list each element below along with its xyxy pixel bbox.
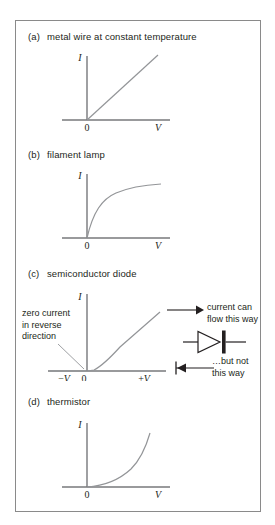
panel-c-x-axis-label-positive: +V — [138, 373, 152, 381]
panel-a-y-axis-label: I — [77, 52, 82, 63]
panel-c-origin-label: 0 — [82, 373, 87, 381]
panel-b-caption: (b)filament lamp — [28, 149, 105, 161]
panel-d-tag: (d) — [28, 396, 47, 408]
panel-a-origin-label: 0 — [85, 122, 90, 133]
figure-root: (a)metal wire at constant temperature I … — [0, 0, 275, 525]
panel-d-curve — [87, 433, 150, 487]
panel-b-x-axis-label: V — [155, 240, 163, 251]
panel-c-side-note-reverse: …but not this way — [212, 356, 249, 379]
panel-b-caption-text: filament lamp — [47, 149, 105, 160]
panel-a-curve — [87, 55, 158, 120]
arrow-right-icon — [166, 300, 206, 320]
panel-c-leader-line — [58, 344, 84, 369]
panel-d-y-axis-label: I — [77, 419, 82, 430]
panel-c-curve — [50, 312, 160, 371]
panel-d-caption: (d)thermistor — [28, 396, 90, 408]
panel-b-origin-label: 0 — [85, 240, 90, 251]
panel-d-origin-label: 0 — [85, 489, 90, 500]
panel-c-side-note-forward-line-2: flow this way — [207, 314, 258, 326]
panel-d-x-axis-label: V — [155, 489, 163, 500]
panel-c-side-note-reverse-line-2: this way — [212, 368, 249, 380]
panel-d-caption-text: thermistor — [47, 396, 90, 407]
panel-a-caption-text: metal wire at constant temperature — [47, 31, 197, 42]
panel-c-side-note-forward-line-1: current can — [207, 302, 258, 314]
panel-c-side-note-reverse-line-1: …but not — [212, 356, 249, 368]
diode-symbol-icon — [182, 328, 248, 356]
panel-a-tag: (a) — [28, 31, 47, 43]
panel-c-y-axis-label: I — [77, 291, 82, 302]
panel-b-tag: (b) — [28, 149, 47, 161]
panel-a-x-axis-label: V — [155, 122, 163, 133]
panel-c-plot: I −V 0 +V — [24, 286, 174, 381]
panel-b-y-axis-label: I — [77, 170, 82, 181]
panel-d-plot: I 0 V — [40, 415, 180, 500]
panel-a-plot: I 0 V — [40, 48, 180, 133]
panel-c-tag: (c) — [28, 268, 47, 280]
panel-c-caption: (c)semiconductor diode — [28, 268, 137, 280]
panel-c-caption-text: semiconductor diode — [47, 268, 137, 279]
panel-b-plot: I 0 V — [40, 166, 180, 251]
panel-c-x-axis-label-negative: −V — [58, 373, 72, 381]
panel-b-curve — [87, 184, 161, 238]
panel-c-side-note-forward: current can flow this way — [207, 302, 258, 325]
panel-a-caption: (a)metal wire at constant temperature — [28, 31, 197, 43]
